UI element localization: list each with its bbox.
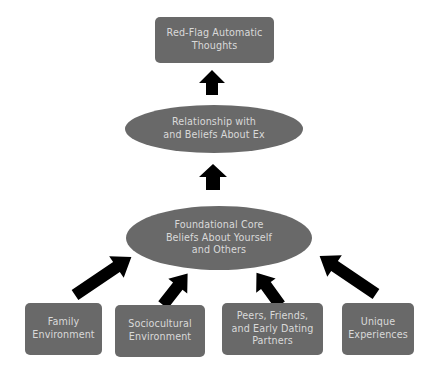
core-beliefs-ellipse: Foundational Core Beliefs About Yourself… [126, 206, 312, 270]
relationship-beliefs-line2: and Beliefs About Ex [163, 129, 264, 142]
unique-experiences-box: Unique Experiences [342, 303, 414, 355]
arrow-unique-to-core [312, 245, 383, 305]
arrow-family-to-core [68, 246, 139, 306]
peers-friends-line3: Partners [232, 335, 314, 348]
family-environment-line2: Environment [32, 329, 94, 342]
unique-experiences-line1: Unique [348, 316, 408, 329]
peers-friends-line2: and Early Dating [232, 323, 314, 336]
peers-friends-box: Peers, Friends, and Early Dating Partner… [222, 303, 323, 355]
arrow-core-to-middle [199, 164, 227, 190]
core-beliefs-line1: Foundational Core [166, 219, 272, 232]
sociocultural-environment-line2: Environment [128, 331, 191, 344]
unique-experiences-line2: Experiences [348, 329, 408, 342]
family-environment-box: Family Environment [25, 303, 102, 355]
red-flag-thoughts-line2: Thoughts [167, 40, 263, 53]
red-flag-thoughts-box: Red-Flag Automatic Thoughts [155, 17, 274, 63]
core-beliefs-line2: Beliefs About Yourself [166, 232, 272, 245]
peers-friends-line1: Peers, Friends, [232, 310, 314, 323]
sociocultural-environment-line1: Sociocultural [128, 318, 191, 331]
red-flag-thoughts-line1: Red-Flag Automatic [167, 27, 263, 40]
family-environment-line1: Family [32, 316, 94, 329]
core-beliefs-line3: and Others [166, 244, 272, 257]
sociocultural-environment-box: Sociocultural Environment [115, 305, 205, 357]
relationship-beliefs-line1: Relationship with [163, 116, 264, 129]
relationship-beliefs-ellipse: Relationship with and Beliefs About Ex [125, 105, 303, 153]
arrow-middle-to-top [199, 70, 225, 95]
